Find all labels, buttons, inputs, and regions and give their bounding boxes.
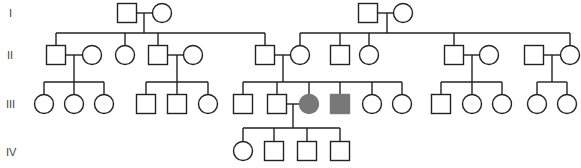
male-square-icon: [234, 95, 253, 114]
male-square-icon: [445, 46, 464, 65]
male-square-icon: [137, 95, 156, 114]
male-square-icon: [268, 95, 287, 114]
female-circle-icon: [234, 142, 253, 161]
female-circle-icon: [116, 46, 135, 65]
male-square-icon: [525, 46, 544, 65]
male-square-icon: [331, 46, 350, 65]
male-square-icon: [432, 95, 451, 114]
affected-female-circle-icon: [300, 95, 319, 114]
male-square-icon: [168, 95, 187, 114]
pedigree-chart: [0, 0, 581, 168]
male-square-icon: [256, 46, 275, 65]
female-circle-icon: [65, 95, 84, 114]
female-circle-icon: [153, 4, 172, 23]
female-circle-icon: [360, 46, 379, 65]
male-square-icon: [359, 4, 378, 23]
male-square-icon: [298, 142, 317, 161]
male-square-icon: [265, 142, 284, 161]
female-circle-icon: [199, 95, 218, 114]
pedigree-lines: [44, 13, 570, 142]
female-circle-icon: [480, 46, 499, 65]
female-circle-icon: [35, 95, 54, 114]
male-square-icon: [149, 46, 168, 65]
female-circle-icon: [558, 95, 577, 114]
female-circle-icon: [95, 95, 114, 114]
female-circle-icon: [528, 95, 547, 114]
male-square-icon: [118, 4, 137, 23]
female-circle-icon: [83, 46, 102, 65]
female-circle-icon: [493, 95, 512, 114]
female-circle-icon: [291, 46, 310, 65]
female-circle-icon: [463, 95, 482, 114]
male-square-icon: [47, 46, 66, 65]
male-square-icon: [331, 142, 350, 161]
affected-male-square-icon: [331, 95, 350, 114]
female-circle-icon: [184, 46, 203, 65]
female-circle-icon: [363, 95, 382, 114]
female-circle-icon: [394, 4, 413, 23]
female-circle-icon: [561, 46, 580, 65]
female-circle-icon: [393, 95, 412, 114]
